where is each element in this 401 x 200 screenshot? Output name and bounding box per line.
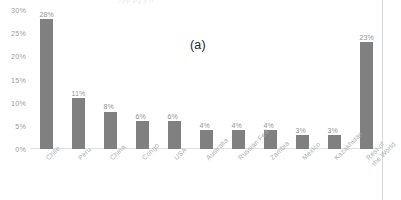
y-axis-tick-label: 20% bbox=[11, 52, 26, 61]
bar-value-label: 4% bbox=[232, 122, 242, 129]
x-axis-category-labels: ChilePeruChinaCongoUSAAustraliaRussian F… bbox=[30, 150, 382, 200]
bar: 11% bbox=[72, 98, 85, 149]
bar-value-label: 28% bbox=[40, 11, 54, 18]
y-axis-tick-label: 10% bbox=[11, 98, 26, 107]
bar: 4% bbox=[232, 130, 245, 149]
bar-value-label: 4% bbox=[200, 122, 210, 129]
y-axis-tick-label: 25% bbox=[11, 29, 26, 38]
plot-area: 30%25%20%15%10%5%0% 28%11%8%6%6%4%4%4%3%… bbox=[30, 10, 382, 149]
bar: 3% bbox=[296, 135, 309, 149]
bar-column: 28% bbox=[30, 10, 62, 149]
bar-value-label: 11% bbox=[72, 90, 86, 97]
bar-value-label: 3% bbox=[296, 127, 306, 134]
bar-column: 6% bbox=[126, 10, 158, 149]
bar-column: 23% bbox=[350, 10, 382, 149]
figure-right-border bbox=[382, 0, 383, 200]
bar: 4% bbox=[200, 130, 213, 149]
bar-column: 8% bbox=[94, 10, 126, 149]
bar: 28% bbox=[40, 19, 53, 149]
x-axis-label-cell: Rest of the World bbox=[350, 150, 382, 200]
bar-column: 3% bbox=[318, 10, 350, 149]
bar: 3% bbox=[328, 135, 341, 149]
x-axis-label-cell: Peru bbox=[62, 150, 94, 200]
x-axis-label-cell: Russian Fed. bbox=[222, 150, 254, 200]
bar-column: 4% bbox=[254, 10, 286, 149]
bar-value-label: 3% bbox=[328, 127, 338, 134]
bar-column: 11% bbox=[62, 10, 94, 149]
x-axis-label-cell: Australia bbox=[190, 150, 222, 200]
x-axis-label-cell: Zambia bbox=[254, 150, 286, 200]
bar: 6% bbox=[136, 121, 149, 149]
bar-value-label: 8% bbox=[104, 103, 114, 110]
y-axis-tick-label: 5% bbox=[15, 121, 26, 130]
bar-series: 28%11%8%6%6%4%4%4%3%3%23% bbox=[30, 10, 382, 149]
x-axis-label-cell: Kazakhstan bbox=[318, 150, 350, 200]
bar-column: 4% bbox=[190, 10, 222, 149]
bar-value-label: 23% bbox=[360, 34, 374, 41]
x-axis-label-cell: USA bbox=[158, 150, 190, 200]
x-axis-label-cell: Congo bbox=[126, 150, 158, 200]
y-axis-tick-label: 0% bbox=[15, 145, 26, 154]
bar-value-label: 6% bbox=[168, 113, 178, 120]
bar-chart-figure: ppp pg y p 30%25%20%15%10%5%0% 28%11%8%6… bbox=[0, 0, 401, 200]
x-axis-label-cell: Mexico bbox=[286, 150, 318, 200]
bar-column: 3% bbox=[286, 10, 318, 149]
cropped-text-sliver: ppp pg y p bbox=[118, 0, 368, 4]
y-axis-tick-label: 30% bbox=[11, 6, 26, 15]
bar-column: 6% bbox=[158, 10, 190, 149]
bar-column: 4% bbox=[222, 10, 254, 149]
bar: 8% bbox=[104, 112, 117, 149]
x-axis-label-cell: Chile bbox=[30, 150, 62, 200]
x-axis-label-cell: China bbox=[94, 150, 126, 200]
y-axis-tick-label: 15% bbox=[11, 75, 26, 84]
bar: 6% bbox=[168, 121, 181, 149]
panel-label: (a) bbox=[190, 38, 206, 52]
bar-value-label: 6% bbox=[136, 113, 146, 120]
